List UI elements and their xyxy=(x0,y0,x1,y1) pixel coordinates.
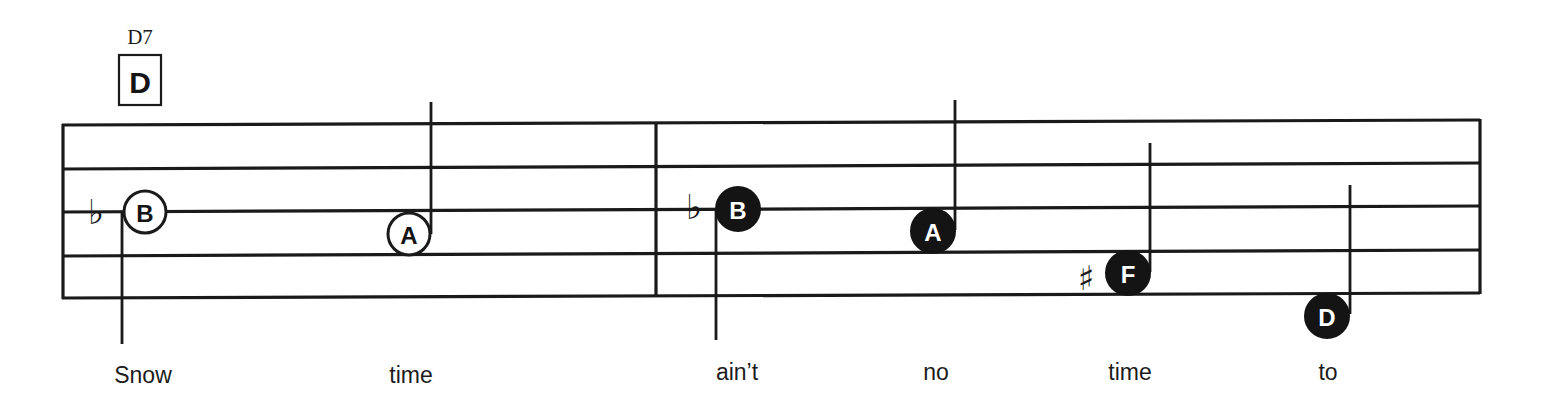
note-letter: F xyxy=(1121,261,1136,288)
staff-line-3 xyxy=(62,206,1480,212)
note-letter: D xyxy=(1318,304,1335,331)
measure-2: ♭ B A ♯ F D xyxy=(686,100,1350,340)
note-letter: A xyxy=(400,222,417,249)
chord-symbol: D7 D xyxy=(119,25,161,105)
note-letter: A xyxy=(924,219,941,246)
lyric-word: time xyxy=(1108,359,1151,385)
flat-icon: ♭ xyxy=(88,192,104,232)
staff-line-4 xyxy=(62,250,1480,256)
staff-line-2 xyxy=(62,163,1480,169)
staff-line-1 xyxy=(62,120,1480,125)
note-letter: B xyxy=(729,197,746,224)
lyric-word: no xyxy=(923,359,949,385)
lyric-word: to xyxy=(1318,359,1337,385)
flat-icon: ♭ xyxy=(686,187,702,227)
chord-name: D7 xyxy=(127,25,153,49)
note-1: ♭ B xyxy=(88,191,166,344)
lyric-word: time xyxy=(389,362,432,388)
note-3: ♭ B xyxy=(686,187,760,340)
lyric-word: Snow xyxy=(114,362,172,388)
sharp-icon: ♯ xyxy=(1078,258,1094,298)
staff-lines xyxy=(62,120,1480,298)
lyrics: Snow time ain’t no time to xyxy=(114,359,1337,388)
staff-line-5 xyxy=(62,293,1480,298)
lyric-word: ain’t xyxy=(716,359,759,385)
chord-letter: D xyxy=(129,66,151,99)
note-letter: B xyxy=(136,200,153,227)
music-staff-score: D7 D ♭ B A ♭ xyxy=(0,0,1561,414)
measure-1: ♭ B A xyxy=(88,102,431,344)
